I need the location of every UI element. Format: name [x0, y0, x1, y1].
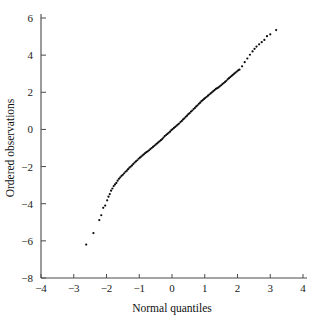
y-tick-label: −8 [21, 272, 33, 284]
x-axis-title: Normal quantiles [132, 302, 212, 315]
x-tick-label: 0 [169, 282, 175, 294]
y-tick-label: −4 [21, 198, 33, 210]
data-point [263, 39, 265, 41]
chart-canvas: −4−3−2−101234 −8−6−4−20246 Normal quanti… [0, 0, 317, 318]
y-tick-label: 0 [28, 123, 34, 135]
data-point [246, 57, 248, 59]
data-point [266, 35, 268, 37]
y-tick-label: 4 [28, 49, 34, 61]
x-tick-label: −4 [35, 282, 47, 294]
x-tick-label: 3 [268, 282, 274, 294]
data-point [109, 193, 111, 195]
x-tick-label: 2 [235, 282, 241, 294]
data-point [115, 182, 117, 184]
data-point [111, 187, 113, 189]
qq-plot-figure: −4−3−2−101234 −8−6−4−20246 Normal quanti… [0, 0, 317, 318]
data-point [269, 33, 271, 35]
y-tick-label: −6 [21, 235, 33, 247]
y-tick-label: −2 [21, 161, 33, 173]
x-tick-label: −2 [101, 282, 113, 294]
data-point [85, 243, 87, 245]
x-tick-label: −1 [133, 282, 145, 294]
data-point [275, 29, 277, 31]
data-point [241, 65, 243, 67]
data-point [107, 196, 109, 198]
data-point [251, 50, 253, 52]
data-point [98, 219, 100, 221]
y-tick-label: 2 [28, 86, 34, 98]
data-point [106, 199, 108, 201]
data-point [110, 190, 112, 192]
data-point [258, 43, 260, 45]
data-point [104, 204, 106, 206]
data-point [238, 69, 240, 71]
y-axis-title: Ordered observations [4, 98, 16, 197]
data-point [253, 48, 255, 50]
data-point [255, 46, 257, 48]
x-tick-label: 4 [300, 282, 306, 294]
y-tick-label: 6 [28, 12, 34, 24]
x-tick-label: 1 [202, 282, 208, 294]
data-point [102, 207, 104, 209]
data-point [92, 232, 94, 234]
x-tick-label: −3 [68, 282, 80, 294]
data-point [100, 214, 102, 216]
data-point [249, 54, 251, 56]
data-point [261, 41, 263, 43]
data-point [244, 61, 246, 63]
chart-background [0, 0, 317, 318]
data-point [117, 180, 119, 182]
